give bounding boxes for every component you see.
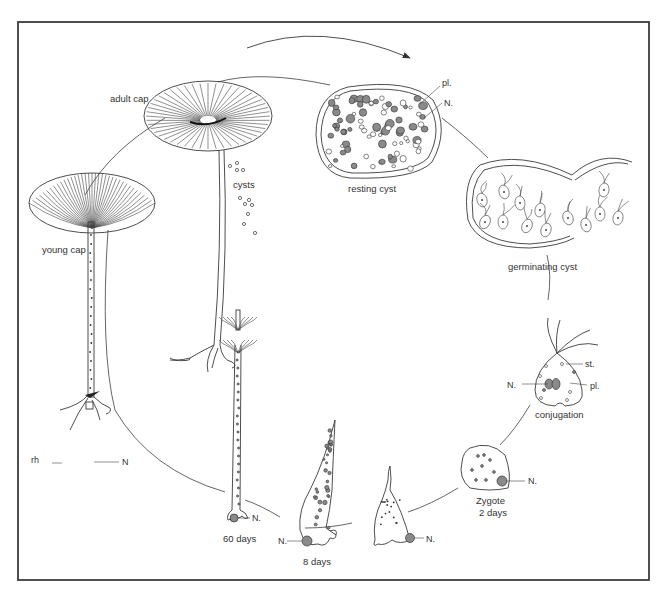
plastid-pointer-line [570,383,587,385]
sixty-days-organism [219,310,257,522]
young-cap-label: young cap [42,244,86,255]
zygote-nucleus-label: N. [528,476,537,486]
sixty-days-nucleus-label: N. [252,513,261,523]
adult-cap-organism [144,81,272,372]
sixty-days-label: 60 days [223,533,257,544]
conjugation-plastid-label: pl. [590,381,600,391]
adult-cap-label: adult cap [110,93,149,104]
resting-cyst-organism [316,84,441,178]
cycle-direction-arrow [247,36,410,58]
young-cap-organism [29,173,155,463]
germinating-cyst-organism [467,158,633,248]
germinating-cyst-label: germinating cyst [508,261,578,272]
eight-days-organism [300,420,337,546]
resting-cyst-plastid-label: pl. [442,78,452,88]
germling-nucleus-label: N. [426,534,435,544]
zygote-organism [461,445,509,490]
conjugation-nucleus-label: N. [507,380,516,390]
eight-days-nucleus-label: N. [278,536,287,546]
conjugation-label: conjugation [535,409,584,420]
life-cycle-figure: young cap rh N adult cap cysts pl. N. re… [0,0,668,597]
zygote-age-label: 2 days [479,507,507,518]
eight-days-label: 8 days [303,556,331,567]
cysts-label: cysts [233,179,255,190]
young-germling-organism [374,466,415,545]
conjugation-stigma-label: st. [585,359,595,369]
cysts-dots [228,161,256,234]
zygote-label: Zygote [476,495,505,506]
resting-cyst-label: resting cyst [348,183,396,194]
rhizoid-label: rh [31,455,39,465]
plastid-pointer-line [420,86,440,104]
resting-cyst-nucleus-label: N. [444,98,453,108]
young-cap-nucleus-label: N [122,457,129,467]
